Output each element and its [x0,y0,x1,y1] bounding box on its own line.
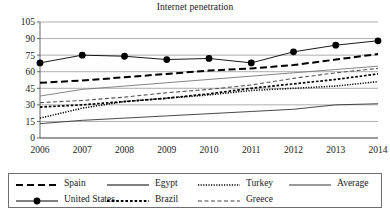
svg-text:75: 75 [26,51,36,61]
svg-text:2014: 2014 [369,145,388,155]
legend-item-united-states[interactable]: United States [15,191,106,207]
svg-text:0: 0 [30,133,35,143]
solid-marker-swatch [15,193,59,205]
y-axis-tick-labels: 0153045607590105 [21,17,36,143]
solid-swatch [106,177,150,189]
series-marker-united-states [248,59,255,66]
dashed-swatch [15,177,59,189]
gridlines [40,22,378,138]
svg-text:105: 105 [21,17,36,27]
plot-area: 0153045607590105 20062007200820092010201… [0,14,390,160]
svg-text:2011: 2011 [242,145,261,155]
legend-item-egypt[interactable]: Egypt [106,175,197,191]
legend-row: United StatesBrazilGreece [9,191,381,207]
legend-label: Turkey [246,178,273,189]
legend-label: Brazil [155,194,178,205]
dotted-dash-swatch [106,195,150,207]
dashed-short-swatch [197,195,241,207]
series-line-brazil [40,74,378,107]
dashed-short-swatch [197,193,241,205]
data-series [40,41,378,124]
svg-text:2007: 2007 [73,145,92,155]
svg-text:2008: 2008 [115,145,134,155]
series-line-greece [40,68,378,102]
chart-legend: SpainEgyptTurkeyAverage United StatesBra… [8,173,382,208]
series-marker-united-states [37,59,44,66]
series-marker-united-states [206,55,213,62]
data-markers [37,37,382,66]
legend-label: Spain [64,178,86,189]
svg-text:30: 30 [26,100,36,110]
legend-label: Egypt [155,178,178,189]
svg-text:2009: 2009 [157,145,176,155]
svg-text:2012: 2012 [284,145,303,155]
dotted-swatch [197,177,241,189]
svg-text:45: 45 [26,84,36,94]
x-axis-tick-labels: 200620072008200920102011201220132014 [31,145,388,155]
legend-label: Greece [246,194,273,205]
legend-item-average[interactable]: Average [288,175,379,191]
series-marker-united-states [332,42,339,49]
series-marker-united-states [290,48,297,55]
dotted-swatch [197,179,241,191]
svg-text:15: 15 [26,117,36,127]
legend-item-turkey[interactable]: Turkey [197,175,288,191]
legend-item-greece[interactable]: Greece [197,191,288,207]
solid-swatch [106,179,150,191]
legend-item-spain[interactable]: Spain [15,175,106,191]
dotted-dash-swatch [106,193,150,205]
svg-text:2006: 2006 [31,145,50,155]
chart-figure: Internet penetration 0153045607590105 20… [0,0,390,214]
svg-text:60: 60 [26,67,36,77]
svg-text:90: 90 [26,34,36,44]
series-marker-united-states [375,37,382,44]
series-marker-united-states [121,53,128,60]
series-marker-united-states [79,52,86,59]
solid-marker-swatch [15,195,59,207]
svg-text:2013: 2013 [326,145,345,155]
solid-gray-swatch [288,179,332,191]
solid-gray-swatch [288,177,332,189]
chart-title: Internet penetration [0,2,390,12]
legend-row: SpainEgyptTurkeyAverage [9,175,381,191]
line-chart-svg: 0153045607590105 20062007200820092010201… [0,14,390,160]
legend-item-brazil[interactable]: Brazil [106,191,197,207]
series-line-turkey [40,82,378,118]
dashed-swatch [15,179,59,191]
svg-text:2010: 2010 [200,145,219,155]
legend-label: Average [337,178,368,189]
series-line-egypt [40,104,378,124]
series-marker-united-states [163,56,170,63]
